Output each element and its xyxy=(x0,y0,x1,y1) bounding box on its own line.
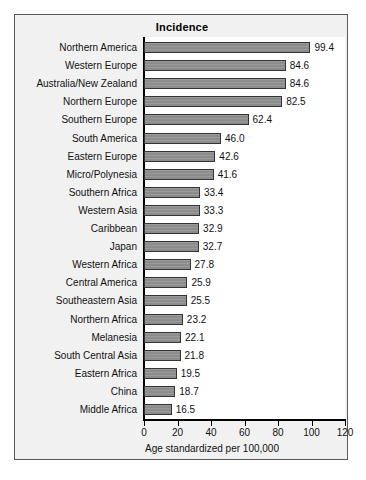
bar xyxy=(144,133,221,144)
x-tick xyxy=(245,421,246,426)
bar xyxy=(144,114,249,125)
bar-value-label: 99.4 xyxy=(314,42,333,53)
bar-value-label: 41.6 xyxy=(218,169,237,180)
bar-row: Northern America99.4 xyxy=(15,40,349,58)
x-tick xyxy=(144,421,145,426)
bar-row: China18.7 xyxy=(15,384,349,402)
bar xyxy=(144,314,183,325)
bar xyxy=(144,241,199,252)
x-tick xyxy=(345,421,346,426)
x-tick xyxy=(312,421,313,426)
bar-value-label: 84.6 xyxy=(290,60,309,71)
category-label: Caribbean xyxy=(91,223,137,234)
bar-value-label: 33.3 xyxy=(204,205,223,216)
bar-row: Caribbean32.9 xyxy=(15,221,349,239)
x-tick-label: 120 xyxy=(325,427,365,438)
bar-value-label: 22.1 xyxy=(185,332,204,343)
bar xyxy=(144,368,177,379)
bar-row: Melanesia22.1 xyxy=(15,330,349,348)
bar-value-label: 23.2 xyxy=(187,314,206,325)
bar-value-label: 32.7 xyxy=(203,241,222,252)
bar-value-label: 16.5 xyxy=(176,404,195,415)
bar-value-label: 21.8 xyxy=(185,350,204,361)
bar-value-label: 19.5 xyxy=(181,368,200,379)
bar-row: Western Africa27.8 xyxy=(15,257,349,275)
bar-row: Central America25.9 xyxy=(15,275,349,293)
bar xyxy=(144,205,200,216)
bar-row: Western Asia33.3 xyxy=(15,203,349,221)
bar-row: Japan32.7 xyxy=(15,239,349,257)
category-label: Japan xyxy=(110,241,137,252)
bar-value-label: 82.5 xyxy=(286,96,305,107)
bar-row: Eastern Europe42.6 xyxy=(15,149,349,167)
bar-row: Southern Africa33.4 xyxy=(15,185,349,203)
bar-row: Australia/New Zealand84.6 xyxy=(15,76,349,94)
bar-row: Southeastern Asia25.5 xyxy=(15,293,349,311)
bar xyxy=(144,187,200,198)
bar-row: South America46.0 xyxy=(15,131,349,149)
bar xyxy=(144,96,282,107)
chart-title: Incidence xyxy=(15,21,349,33)
category-label: Western Asia xyxy=(78,205,137,216)
category-label: Eastern Africa xyxy=(75,368,137,379)
bar xyxy=(144,42,310,53)
x-axis-label: Age standardized per 100,000 xyxy=(75,443,349,454)
category-label: South America xyxy=(72,133,137,144)
bar xyxy=(144,295,187,306)
category-label: Micro/Polynesia xyxy=(66,169,137,180)
category-label: South Central Asia xyxy=(54,350,137,361)
bar-value-label: 18.7 xyxy=(179,386,198,397)
bar xyxy=(144,404,172,415)
category-label: Western Africa xyxy=(72,259,137,270)
bar-row: Northern Europe82.5 xyxy=(15,94,349,112)
category-label: Western Europe xyxy=(65,60,137,71)
category-label: Northern Africa xyxy=(70,314,137,325)
category-label: Southern Europe xyxy=(61,114,137,125)
x-tick xyxy=(178,421,179,426)
bar xyxy=(144,78,286,89)
bar xyxy=(144,169,214,180)
bar xyxy=(144,223,199,234)
category-label: Southern Africa xyxy=(69,187,137,198)
category-label: Melanesia xyxy=(91,332,137,343)
bar-row: Southern Europe62.4 xyxy=(15,112,349,130)
bar xyxy=(144,60,286,71)
category-label: Northern Europe xyxy=(63,96,137,107)
bar xyxy=(144,151,215,162)
x-tick xyxy=(211,421,212,426)
category-label: China xyxy=(111,386,137,397)
bar-value-label: 25.5 xyxy=(191,295,210,306)
bar-row: Eastern Africa19.5 xyxy=(15,366,349,384)
bar-value-label: 46.0 xyxy=(225,133,244,144)
chart-figure: Incidence Northern America99.4Western Eu… xyxy=(0,0,366,480)
bar-value-label: 33.4 xyxy=(204,187,223,198)
bar-row: Northern Africa23.2 xyxy=(15,312,349,330)
x-tick xyxy=(278,421,279,426)
category-label: Middle Africa xyxy=(80,404,137,415)
bar-value-label: 27.8 xyxy=(195,259,214,270)
bar-row: Middle Africa16.5 xyxy=(15,402,349,420)
bar-row: South Central Asia21.8 xyxy=(15,348,349,366)
bar xyxy=(144,350,181,361)
bar-value-label: 42.6 xyxy=(219,151,238,162)
chart-panel: Incidence Northern America99.4Western Eu… xyxy=(14,14,348,460)
bar xyxy=(144,259,191,270)
bar xyxy=(144,332,181,343)
category-label: Eastern Europe xyxy=(68,151,138,162)
bar xyxy=(144,386,175,397)
category-label: Central America xyxy=(66,277,137,288)
bar-value-label: 32.9 xyxy=(203,223,222,234)
category-label: Southeastern Asia xyxy=(56,295,137,306)
bar xyxy=(144,277,187,288)
bar-row: Micro/Polynesia41.6 xyxy=(15,167,349,185)
bar-value-label: 62.4 xyxy=(253,114,272,125)
bar-row: Western Europe84.6 xyxy=(15,58,349,76)
bar-value-label: 25.9 xyxy=(191,277,210,288)
category-label: Northern America xyxy=(59,42,137,53)
category-label: Australia/New Zealand xyxy=(36,78,137,89)
bar-value-label: 84.6 xyxy=(290,78,309,89)
